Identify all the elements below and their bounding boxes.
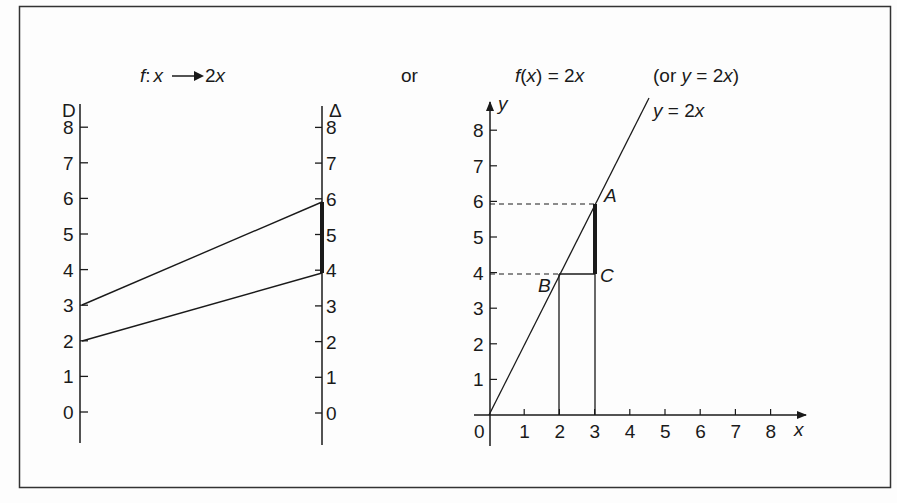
y-tick-label: 4	[473, 263, 484, 284]
or-text: or	[401, 65, 419, 86]
codomain-tick-label: 1	[326, 367, 337, 388]
function-diagram: f:x 2x or f(x) = 2x (or y = 2x) D 012345…	[0, 0, 897, 503]
point-a-label: A	[603, 185, 617, 206]
y-tick-label: 2	[473, 334, 484, 355]
x-tick-label: 4	[625, 421, 636, 442]
codomain-tick-label: 4	[326, 260, 337, 281]
y-tick-label: 3	[473, 298, 484, 319]
domain-ticks: 012345678	[63, 117, 88, 423]
y-tick-label: 6	[473, 191, 484, 212]
codomain-tick-label: 3	[326, 296, 337, 317]
domain-tick-label: 1	[63, 366, 74, 387]
y-tick-label: 1	[473, 369, 484, 390]
line-label: y = 2x	[651, 100, 706, 121]
x-tick-label: 5	[660, 421, 671, 442]
mapping-line-2-to-4	[82, 273, 322, 341]
mapping-arrow-icon	[172, 71, 204, 81]
y-tick-label: 5	[473, 227, 484, 248]
domain-tick-label: 6	[63, 188, 74, 209]
codomain-tick-label: 0	[326, 403, 337, 424]
x-axis-label: x	[793, 419, 805, 440]
codomain-tick-label: 7	[326, 153, 337, 174]
line-y-equals-2x	[489, 98, 649, 415]
alt-notation-title: (or y = 2x)	[653, 65, 739, 86]
x-tick-label: 7	[730, 421, 741, 442]
y-ticks: 12345678	[473, 120, 497, 390]
x-tick-label: 8	[766, 421, 777, 442]
y-tick-label: 7	[473, 156, 484, 177]
mapping-title-target: 2x	[205, 65, 227, 86]
y-axis-label: y	[496, 93, 509, 114]
domain-tick-label: 5	[63, 224, 74, 245]
domain-tick-label: 3	[63, 295, 74, 316]
point-b-label: B	[538, 275, 551, 296]
function-notation-title: f(x) = 2x	[515, 65, 586, 86]
mapping-line-3-to-6	[82, 202, 322, 305]
codomain-tick-label: 6	[326, 189, 337, 210]
codomain-tick-label: 8	[326, 117, 337, 138]
codomain-tick-label: 5	[326, 225, 337, 246]
domain-tick-label: 0	[63, 402, 74, 423]
y-tick-label: 8	[473, 120, 484, 141]
mapping-diagram: D 012345678 Δ 012345678	[62, 100, 342, 445]
domain-tick-label: 4	[63, 260, 74, 281]
point-c-label: C	[600, 265, 614, 286]
codomain-tick-label: 2	[326, 332, 337, 353]
domain-tick-label: 7	[63, 153, 74, 174]
cartesian-graph: y x 0 12345678 12345678 y = 2x A B C	[473, 93, 806, 446]
x-tick-label: 3	[590, 421, 601, 442]
x-tick-label: 6	[695, 421, 706, 442]
domain-tick-label: 8	[63, 117, 74, 138]
x-ticks: 12345678	[519, 409, 776, 442]
codomain-ticks: 012345678	[315, 117, 337, 424]
mapping-title: f:x	[140, 65, 165, 86]
origin-label: 0	[474, 421, 485, 442]
x-tick-label: 1	[519, 421, 530, 442]
domain-tick-label: 2	[63, 331, 74, 352]
x-tick-label: 2	[554, 421, 565, 442]
